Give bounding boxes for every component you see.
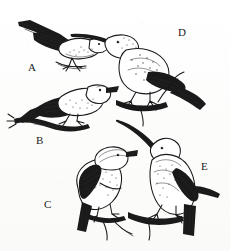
- figure-e-drawing: [0, 0, 230, 251]
- bird-e-group: [116, 120, 220, 240]
- illustration-plate: A: [0, 0, 230, 251]
- figure-label-e: E: [201, 161, 208, 172]
